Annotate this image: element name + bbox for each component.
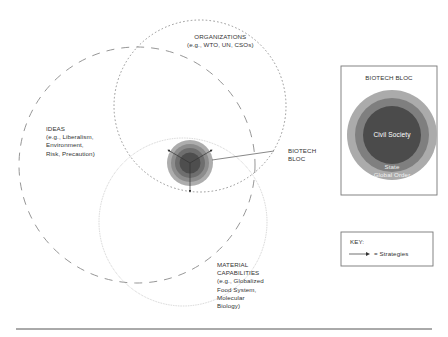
material-title: CAPABILITIES: [217, 269, 264, 277]
organizations-label: ORGANIZATIONS (e.g., WTO, UN, CSOs): [187, 33, 254, 49]
key-item-label: = Strategies: [374, 250, 408, 258]
inset-ring-label-civil-society: Civil Society: [341, 131, 443, 139]
material-example-line: Food System,: [217, 286, 264, 294]
material-example-line: (e.g., Globalized: [217, 277, 264, 285]
ideas-title: IDEAS: [46, 125, 95, 133]
ideas-label: IDEAS (e.g., Liberalism, Environment, Ri…: [46, 125, 95, 158]
material-title: MATERIAL: [217, 261, 264, 269]
key-title: KEY:: [350, 238, 364, 246]
biotech-bloc-label-line: BLOC: [288, 155, 316, 163]
organizations-title: ORGANIZATIONS: [187, 33, 254, 41]
ideas-example-line: Environment,: [46, 141, 95, 149]
ideas-example-line: (e.g., Liberalism,: [46, 133, 95, 141]
material-capabilities-label: MATERIAL CAPABILITIES (e.g., Globalized …: [217, 261, 264, 310]
ideas-circle: [19, 47, 255, 283]
arrow-right-icon: [349, 251, 371, 257]
organizations-examples: (e.g., WTO, UN, CSOs): [187, 41, 254, 49]
key-item: = Strategies: [349, 250, 408, 258]
ideas-example-line: Risk, Precaution): [46, 150, 95, 158]
biotech-bloc-label: BIOTECH BLOC: [288, 147, 316, 163]
inset-ring-label-state: State: [341, 163, 443, 171]
inset-title: BIOTECH BLOC: [341, 74, 437, 82]
inset-ring-label-global-order: Global Order: [341, 171, 443, 179]
material-example-line: Biology): [217, 302, 264, 310]
biotech-bloc-leader-line: [212, 151, 274, 160]
material-example-line: Molecular: [217, 294, 264, 302]
biotech-bloc-label-line: BIOTECH: [288, 147, 316, 155]
